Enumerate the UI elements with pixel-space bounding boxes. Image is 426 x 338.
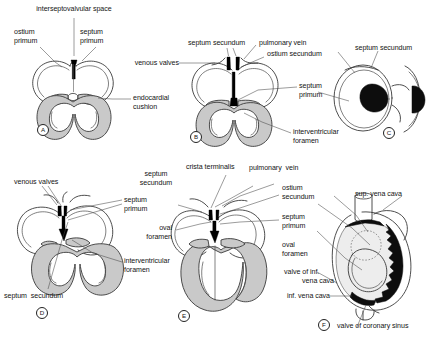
label-f-inf-vena-cava: inf. vena cava xyxy=(272,292,330,300)
panel-key-e: E xyxy=(178,310,190,322)
label-d-septum-primum-line2: primum xyxy=(124,205,147,213)
label-a-ostium-primum-line1: ostium xyxy=(14,28,35,36)
label-f-oval-foramen-line1: oval xyxy=(282,241,295,249)
label-e-septum-secundum-line1: septum xyxy=(132,170,180,178)
label-a-endocardial-cushion-line2: cushion xyxy=(133,103,157,111)
label-b-interventricular-foramen-line1: interventricular xyxy=(293,128,339,136)
panel-e-leaders xyxy=(176,175,279,230)
label-e-ostium-secundum-line2: secundum xyxy=(282,193,314,201)
label-d-septum-primum-line1: septum xyxy=(124,196,147,204)
label-f-valve-inf-vena-cava-line2: vena cava xyxy=(284,277,334,285)
panel-key-d: D xyxy=(36,307,48,319)
label-e-oval-foramen-line1: oval xyxy=(128,224,172,232)
label-e-septum-primum-line2: primum xyxy=(282,222,305,230)
label-e-ostium-secundum-line1: ostium xyxy=(282,184,303,192)
label-a-septum-primum-line2: primum xyxy=(80,37,103,45)
label-f-oval-foramen-line2: foramen xyxy=(282,250,308,258)
label-a-septum-primum-line1: septum xyxy=(80,28,103,36)
label-e-pulmonary-vein: pulmonary vein xyxy=(249,164,298,172)
label-d-interventricular-foramen-line1: interventricular xyxy=(124,257,170,265)
panel-key-c: C xyxy=(383,127,395,139)
label-d-venous-valves: venous valves xyxy=(14,178,58,186)
label-e-crista-terminalis: crista terminalis xyxy=(186,163,234,171)
panel-c-artwork xyxy=(334,65,425,132)
label-a-endocardial-cushion-line1: endocardial xyxy=(133,94,169,102)
cardiac-septation-figure: .out{fill:none;stroke:#3a3a3a;stroke-wid… xyxy=(0,0,426,338)
label-d-interventricular-foramen-line2: foramen xyxy=(124,266,150,274)
label-b-septum-primum-line1: septum xyxy=(299,82,322,90)
panel-key-b: B xyxy=(190,131,202,143)
label-f-valve-of-coronary-sinus: valve of coronary sinus xyxy=(337,322,408,330)
label-c-septum-secundum: septum secundum xyxy=(355,44,412,52)
label-interseptovalvular-space: interseptovalvular space xyxy=(18,5,130,13)
panel-b-artwork xyxy=(192,57,278,146)
panel-d-artwork xyxy=(17,192,123,295)
label-e-septum-primum-line1: septum xyxy=(282,213,305,221)
label-b-pulmonary-vein: pulmonary vein xyxy=(259,39,306,47)
label-e-septum-secundum-line2: secundum xyxy=(132,179,180,187)
label-b-venous-valves: venous valves xyxy=(109,59,179,67)
panel-key-f: F xyxy=(318,319,330,331)
label-f-sup-vena-cava: sup. vena cava xyxy=(355,190,402,198)
label-e-oval-foramen-line2: foramen xyxy=(128,233,172,241)
panel-f-artwork xyxy=(332,193,411,320)
label-b-ostium-secundum: ostium secundum xyxy=(267,50,322,58)
label-b-septum-secundum: septum secundum xyxy=(188,39,245,47)
panel-key-a: A xyxy=(37,124,49,136)
label-b-interventricular-foramen-line2: foramen xyxy=(293,137,319,145)
label-f-valve-inf-vena-cava-line1: valve of inf. xyxy=(284,268,319,276)
label-b-septum-primum-line2: primum xyxy=(299,91,322,99)
label-a-ostium-primum-line2: primum xyxy=(14,37,37,45)
label-d-septum-secundum: septum secundum xyxy=(4,292,63,300)
panel-e-artwork xyxy=(171,199,267,311)
